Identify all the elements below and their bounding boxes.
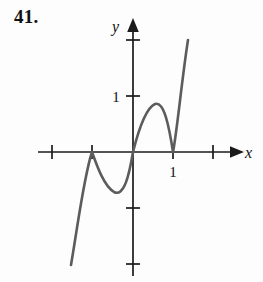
x-axis-arrow-icon [230,146,244,158]
y-axis-label: y [110,18,120,36]
graph-plot: y x 1 1 [0,0,263,282]
figure-container: 41. y x 1 1 [0,0,263,282]
x-axis-label: x [244,144,252,161]
x-tick-label-1: 1 [169,164,177,180]
y-tick-label-1: 1 [112,89,120,105]
y-axis-arrow-icon [127,18,139,32]
